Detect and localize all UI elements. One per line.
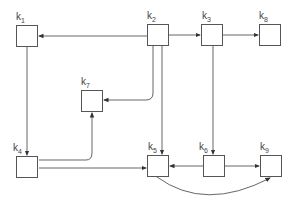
node-label-k1: k1 — [16, 12, 25, 26]
node-label-k5: k5 — [148, 142, 157, 156]
node-label-k9: k9 — [260, 142, 269, 156]
node-k2 — [147, 24, 169, 46]
edge-k2-k7 — [104, 46, 153, 100]
node-k3 — [201, 24, 223, 46]
node-k7 — [81, 90, 103, 112]
node-label-k2: k2 — [147, 11, 156, 25]
node-k8 — [259, 24, 281, 46]
node-label-k7: k7 — [81, 77, 90, 91]
node-k5 — [147, 155, 169, 177]
node-label-k8: k8 — [259, 11, 268, 25]
node-k4 — [16, 156, 38, 178]
node-label-k6: k6 — [199, 142, 208, 156]
node-label-k4: k4 — [13, 143, 22, 157]
node-k6 — [203, 155, 225, 177]
edge-k4-k7 — [39, 113, 92, 160]
node-k1 — [16, 25, 38, 47]
node-label-k3: k3 — [202, 11, 211, 25]
node-k9 — [260, 155, 282, 177]
edge-k5-k9 — [157, 177, 270, 195]
